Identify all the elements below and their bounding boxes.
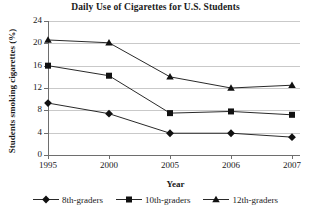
data-point-triangle (288, 81, 296, 87)
data-point-square (167, 110, 173, 116)
data-point-triangle (213, 196, 221, 202)
data-point-diamond (288, 133, 296, 141)
legend-marker-square-icon (116, 194, 142, 205)
data-point-diamond (227, 129, 235, 137)
chart-container: Daily Use of Cigarettes for U.S. Student… (0, 0, 311, 214)
data-point-square (126, 197, 132, 203)
data-point-diamond (44, 99, 52, 107)
legend-label: 12th-graders (232, 195, 277, 205)
data-point-square (106, 73, 112, 79)
x-axis-label: Year (48, 179, 303, 189)
series-8th-graders (44, 99, 296, 141)
data-point-diamond (42, 196, 50, 204)
data-point-diamond (166, 129, 174, 137)
data-point-triangle (44, 36, 52, 42)
series-line (48, 66, 292, 115)
legend-marker-triangle-icon (203, 194, 229, 205)
data-point-square (228, 108, 234, 114)
data-point-diamond (105, 110, 113, 118)
data-point-square (45, 63, 51, 69)
legend-item-8th-graders[interactable]: 8th-graders (33, 194, 103, 205)
legend-item-10th-graders[interactable]: 10th-graders (116, 194, 190, 205)
legend-marker-diamond-icon (33, 194, 59, 205)
data-point-square (289, 112, 295, 118)
legend-label: 10th-graders (145, 195, 190, 205)
data-point-triangle (166, 73, 174, 79)
legend-item-12th-graders[interactable]: 12th-graders (203, 194, 277, 205)
series-12th-graders (44, 36, 296, 90)
chart-legend: 8th-graders10th-graders12th-graders (0, 194, 311, 205)
series-line (48, 40, 292, 88)
legend-label: 8th-graders (62, 195, 103, 205)
